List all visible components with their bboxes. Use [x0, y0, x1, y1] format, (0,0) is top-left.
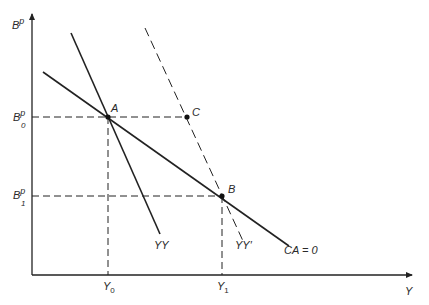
label-yy: YY	[154, 239, 169, 251]
tick-b0-sub: 0	[21, 121, 26, 130]
label-c: C	[192, 106, 200, 118]
tick-b1-sub: 1	[21, 199, 25, 208]
point-c	[184, 114, 189, 119]
label-ca-zero: CA = 0	[284, 244, 318, 256]
y-axis-label: Bp	[12, 16, 24, 31]
label-yy-prime: YY′	[235, 239, 253, 251]
ca-zero-curve	[43, 72, 289, 246]
point-b	[219, 193, 224, 198]
label-b: B	[228, 183, 235, 195]
yy-prime-curve	[145, 28, 243, 241]
tick-y1: Y1	[217, 280, 229, 295]
tick-y0: Y0	[103, 280, 115, 295]
yy-curve	[71, 33, 160, 234]
x-axis-label: Y	[405, 285, 413, 297]
point-a	[105, 114, 110, 119]
label-a: A	[110, 102, 118, 114]
diagram-canvas: Bp Y Bp 0 Bp 1 Y0 Y1 A B C YY YY′ CA = 0	[0, 0, 429, 305]
